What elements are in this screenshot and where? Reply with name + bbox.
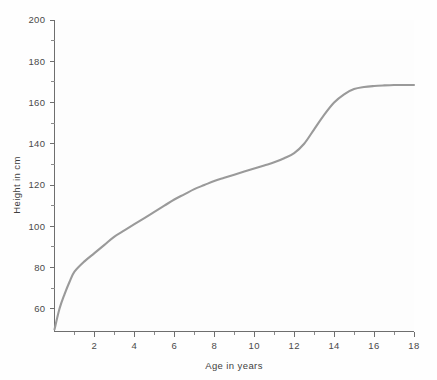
- y-tick-label: 200: [28, 14, 45, 25]
- y-tick-label: 60: [34, 303, 45, 314]
- x-tick-label: 14: [328, 340, 339, 351]
- x-tick-label: 6: [171, 340, 177, 351]
- x-tick-label: 10: [249, 340, 260, 351]
- y-axis-tick-labels: 6080100120140160180200: [28, 14, 45, 314]
- x-axis-major-ticks: [94, 332, 414, 337]
- y-axis-minor-ticks: [51, 41, 55, 289]
- y-tick-label: 100: [28, 221, 45, 232]
- y-tick-label: 80: [34, 262, 45, 273]
- y-axis-title: Height in cm: [11, 156, 22, 214]
- y-axis: 6080100120140160180200: [28, 14, 54, 331]
- x-tick-label: 12: [288, 340, 299, 351]
- x-axis-tick-labels: 24681012141618: [92, 340, 420, 351]
- x-tick-label: 16: [368, 340, 379, 351]
- x-tick-label: 8: [211, 340, 217, 351]
- growth-chart: 6080100120140160180200 24681012141618 Ag…: [0, 0, 437, 380]
- y-tick-label: 120: [28, 179, 45, 190]
- x-tick-label: 4: [132, 340, 138, 351]
- y-tick-label: 140: [28, 138, 45, 149]
- x-tick-label: 2: [92, 340, 98, 351]
- chart-canvas: 6080100120140160180200 24681012141618 Ag…: [0, 0, 437, 380]
- y-tick-label: 180: [28, 56, 45, 67]
- x-axis-title: Age in years: [205, 360, 263, 371]
- x-axis: 24681012141618: [55, 332, 420, 351]
- x-tick-label: 18: [408, 340, 419, 351]
- x-axis-minor-ticks: [74, 332, 394, 336]
- y-tick-label: 160: [28, 97, 45, 108]
